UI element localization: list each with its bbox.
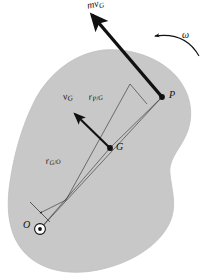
label-vg-subscript: G bbox=[67, 94, 74, 103]
point-o-marker bbox=[35, 224, 46, 235]
label-rgo-subscript: G/O bbox=[49, 157, 61, 166]
label-r-p-over-g: rP/G bbox=[88, 91, 103, 103]
label-point-o: O bbox=[23, 220, 30, 230]
label-o-symbol: O bbox=[23, 219, 30, 230]
rigid-body-momentum-figure: mvG ω P vG rP/G G rG/O O bbox=[0, 0, 211, 280]
label-p-symbol: P bbox=[169, 89, 175, 100]
label-angular-velocity: ω bbox=[182, 30, 189, 40]
angular-velocity-arc bbox=[155, 35, 199, 56]
label-omega-symbol: ω bbox=[182, 29, 189, 40]
rigid-body-shape bbox=[8, 50, 190, 273]
label-point-g: G bbox=[116, 142, 123, 152]
label-velocity-g: vG bbox=[62, 90, 74, 104]
point-p-marker bbox=[159, 94, 165, 100]
label-g-symbol: G bbox=[116, 141, 123, 152]
figure-canvas bbox=[0, 0, 211, 280]
label-point-p: P bbox=[169, 90, 175, 100]
label-rpg-subscript: P/G bbox=[92, 94, 103, 103]
point-g-marker bbox=[107, 145, 113, 151]
